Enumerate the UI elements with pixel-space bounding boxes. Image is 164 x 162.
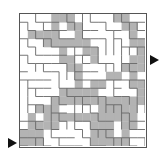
path-cell [122, 113, 130, 122]
path-cell [98, 138, 106, 146]
path-cell [114, 105, 122, 114]
path-cell [67, 64, 75, 73]
path-cell [67, 88, 75, 97]
path-cell [129, 31, 137, 40]
path-cell [98, 80, 106, 89]
path-cell [129, 113, 137, 122]
path-cell [106, 113, 114, 122]
path-cell [51, 39, 59, 48]
path-cell [114, 14, 122, 23]
path-cell [90, 121, 98, 130]
path-cell [28, 31, 36, 40]
path-cell [106, 72, 114, 81]
path-cell [59, 88, 67, 97]
path-cell [51, 105, 59, 114]
path-cell [122, 130, 130, 139]
path-cell [67, 113, 75, 122]
path-cell [75, 97, 83, 106]
path-cell [114, 113, 122, 122]
path-cell [114, 138, 122, 146]
path-cell [28, 130, 36, 139]
path-cell [75, 88, 83, 97]
maze-board [19, 13, 147, 148]
path-cell [129, 55, 137, 64]
path-cell [59, 39, 67, 48]
path-cell [67, 55, 75, 64]
path-cell [36, 31, 44, 40]
path-cell [36, 130, 44, 139]
path-cell [43, 105, 51, 114]
path-cell [67, 14, 75, 23]
path-cell [83, 113, 91, 122]
path-cell [90, 47, 98, 56]
path-cell [122, 105, 130, 114]
path-cell [137, 88, 145, 97]
path-cell [90, 88, 98, 97]
path-cell [106, 138, 114, 146]
path-cell [129, 39, 137, 48]
path-cell [75, 64, 83, 73]
path-cell [43, 31, 51, 40]
path-cell [59, 55, 67, 64]
path-cell [67, 22, 75, 31]
path-cell [129, 64, 137, 73]
path-cell [129, 22, 137, 31]
path-cell [83, 97, 91, 106]
path-cell [90, 80, 98, 89]
path-cell [20, 130, 28, 139]
path-cell [129, 80, 137, 89]
path-cell [122, 138, 130, 146]
path-cell [137, 64, 145, 73]
path-cell [106, 121, 114, 130]
path-cell [83, 47, 91, 56]
path-cell [43, 39, 51, 48]
path-cell [51, 113, 59, 122]
path-cell [75, 31, 83, 40]
path-cell [75, 22, 83, 31]
path-cell [90, 113, 98, 122]
path-cell [28, 113, 36, 122]
path-cell [137, 80, 145, 89]
path-cell [90, 130, 98, 139]
path-cell [28, 138, 36, 146]
path-cell [106, 130, 114, 139]
path-cell [98, 121, 106, 130]
path-cell [106, 97, 114, 106]
path-cell [59, 47, 67, 56]
path-cell [129, 72, 137, 81]
path-cell [67, 39, 75, 48]
path-cell [51, 22, 59, 31]
path-cell [28, 121, 36, 130]
start-arrow-icon [8, 138, 17, 148]
path-cell [51, 14, 59, 23]
path-cell [20, 138, 28, 146]
end-arrow-icon [150, 55, 159, 65]
path-cell [122, 97, 130, 106]
path-cell [83, 88, 91, 97]
path-cell [75, 72, 83, 81]
path-cell [59, 113, 67, 122]
path-cell [75, 113, 83, 122]
path-cell [36, 121, 44, 130]
path-cell [137, 97, 145, 106]
path-cell [122, 22, 130, 31]
path-cell [51, 97, 59, 106]
path-cell [98, 105, 106, 114]
path-cell [67, 97, 75, 106]
path-cell [122, 121, 130, 130]
path-cell [129, 105, 137, 114]
path-cell [98, 130, 106, 139]
path-cell [51, 121, 59, 130]
path-cell [90, 97, 98, 106]
path-cell [36, 138, 44, 146]
path-cell [129, 121, 137, 130]
path-cell [75, 80, 83, 89]
path-cell [122, 14, 130, 23]
path-cell [59, 14, 67, 23]
path-cell [43, 121, 51, 130]
path-cell [51, 31, 59, 40]
path-cell [137, 55, 145, 64]
path-cell [90, 55, 98, 64]
path-cell [129, 97, 137, 106]
path-cell [83, 39, 91, 48]
